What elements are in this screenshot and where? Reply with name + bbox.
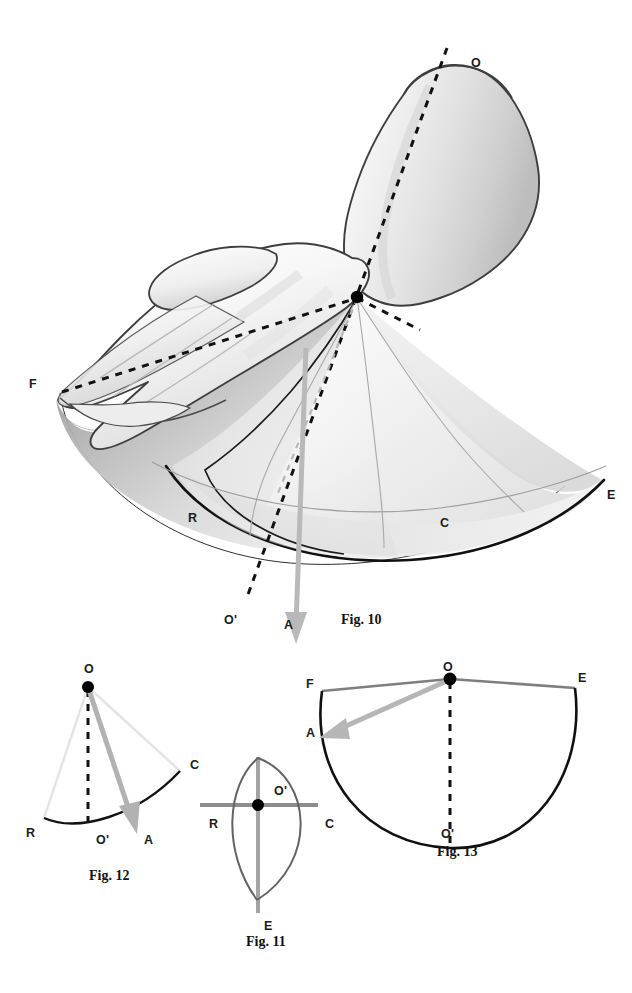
fig11-centre-point	[252, 799, 264, 811]
fig13-label-f: F	[306, 678, 314, 691]
fig13-artwork	[319, 673, 576, 848]
fig11-label-c: C	[325, 818, 334, 831]
fig13-label-o: O	[443, 661, 453, 674]
fig12-label-r: R	[26, 827, 35, 840]
fig10-label-o: O	[471, 57, 481, 70]
fig13-label-o-prime: O'	[441, 828, 454, 841]
fig13-caption: Fig. 13	[437, 845, 477, 859]
fig11-artwork	[200, 757, 318, 913]
fig13-axis-arrow-head	[319, 718, 350, 739]
fig10-label-o-prime: O'	[224, 614, 237, 627]
fig10-label-a: A	[284, 619, 293, 632]
fig12-arc-rc	[44, 771, 180, 823]
fig12-axis-arrow-shaft	[89, 690, 131, 816]
fig13-label-e: E	[578, 672, 587, 685]
fig12-artwork	[44, 681, 180, 834]
fig10-label-e: E	[607, 489, 616, 502]
fig11-lens-right-arc	[257, 758, 301, 900]
fig12-axis-arrow-head	[119, 801, 140, 834]
fig10-forearm	[344, 65, 539, 306]
fig12-label-a: A	[144, 834, 153, 847]
fig13-apex-point	[444, 673, 457, 686]
fig13-radius-oe	[450, 679, 575, 688]
fig12-apex-point	[82, 681, 94, 693]
figure-artwork	[0, 0, 632, 993]
fig13-label-a: A	[306, 727, 315, 740]
fig10-vertex-point	[351, 291, 363, 303]
fig12-caption: Fig. 12	[89, 869, 129, 883]
fig12-label-o-prime: O'	[96, 834, 109, 847]
figure-page: OFERCO'AOCRO'AO'RCEOFEAO' Fig. 10Fig. 12…	[0, 0, 632, 993]
fig12-label-c: C	[190, 759, 199, 772]
fig13-arc-f-e	[320, 688, 576, 848]
fig10-label-r: R	[188, 512, 197, 525]
fig11-label-r: R	[209, 818, 218, 831]
fig10-label-f: F	[29, 378, 37, 391]
fig11-label-o-prime: O'	[274, 785, 287, 798]
fig11-caption: Fig. 11	[246, 935, 286, 949]
fig12-label-o: O	[84, 663, 94, 676]
fig11-lens-left-arc	[232, 758, 258, 900]
fig12-side-or	[44, 687, 88, 818]
fig10-label-c: C	[440, 517, 449, 530]
fig10-artwork	[56, 48, 606, 644]
fig11-label-e: E	[264, 920, 273, 933]
fig10-caption: Fig. 10	[341, 613, 381, 627]
